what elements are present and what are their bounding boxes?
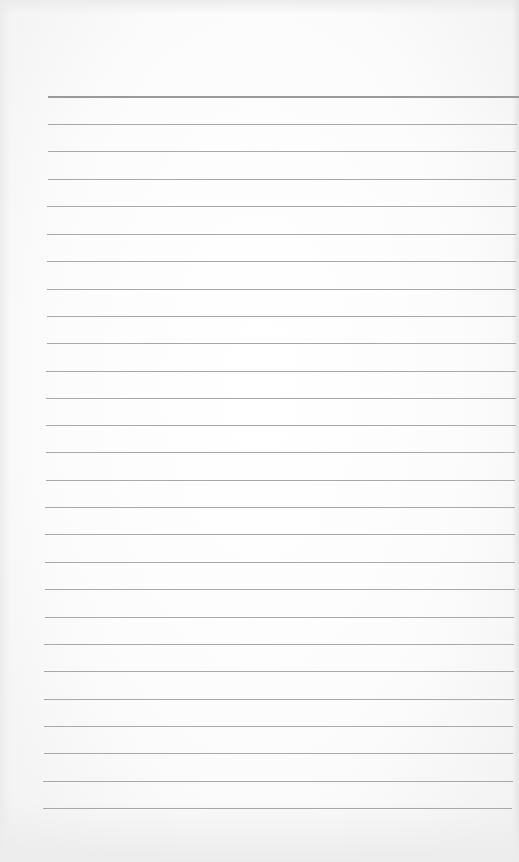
ruled-line bbox=[46, 425, 516, 426]
ruled-line bbox=[46, 452, 515, 453]
ruled-line bbox=[44, 726, 513, 727]
ruled-line bbox=[48, 179, 516, 180]
paper-right-edge-shadow bbox=[512, 0, 519, 862]
ruled-line bbox=[48, 96, 519, 98]
ruled-line bbox=[44, 644, 514, 645]
ruled-line bbox=[47, 234, 516, 235]
ruled-line bbox=[47, 206, 516, 207]
ruled-line bbox=[47, 343, 516, 344]
ruled-line bbox=[47, 261, 516, 262]
ruled-line bbox=[45, 589, 515, 590]
paper-left-edge-shadow bbox=[0, 0, 10, 862]
ruled-line bbox=[44, 699, 514, 700]
paper-bottom-edge-shadow bbox=[0, 802, 519, 862]
paper-top-edge-shadow bbox=[0, 0, 519, 14]
ruled-line bbox=[46, 398, 516, 399]
ruled-line bbox=[43, 808, 512, 809]
ruled-line bbox=[45, 617, 514, 618]
ruled-line bbox=[47, 289, 516, 290]
ruled-line bbox=[48, 124, 517, 125]
ruled-line bbox=[46, 371, 516, 372]
ruled-line bbox=[44, 671, 514, 672]
ruled-line bbox=[44, 753, 513, 754]
ruled-line bbox=[43, 781, 513, 782]
lined-paper-page bbox=[0, 0, 519, 862]
ruled-line bbox=[45, 562, 515, 563]
ruled-line bbox=[45, 507, 515, 508]
ruled-line bbox=[46, 480, 515, 481]
ruled-line bbox=[47, 316, 516, 317]
ruled-line bbox=[48, 151, 516, 152]
ruled-line bbox=[45, 534, 515, 535]
